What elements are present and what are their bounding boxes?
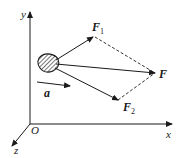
vector-f2 [55, 68, 118, 100]
z-axis [12, 124, 30, 146]
vector-f1 [56, 37, 93, 60]
x-axis-label: x [165, 128, 171, 140]
y-axis-label: y [20, 8, 26, 20]
object-blob [38, 54, 59, 72]
dashed-f1-to-f [95, 37, 155, 73]
z-axis-label: z [13, 144, 19, 156]
f2-label: F2 [122, 100, 135, 116]
origin-label: O [31, 124, 39, 136]
force-diagram: y x z O F1 F F2 a [0, 0, 180, 158]
a-label: a [44, 86, 50, 100]
diagram-svg: y x z O F1 F F2 a [0, 0, 180, 158]
f-label: F [158, 67, 167, 81]
dashed-f2-to-f [118, 73, 155, 100]
acceleration-arrow [37, 82, 70, 86]
vector-f [56, 64, 155, 73]
f1-label: F1 [91, 20, 104, 36]
